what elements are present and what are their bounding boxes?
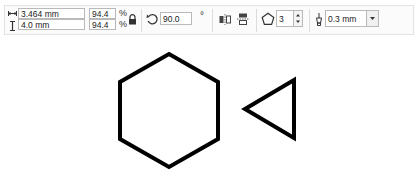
separator: [212, 9, 213, 32]
separator: [309, 9, 310, 32]
pentagon-icon: [261, 12, 275, 26]
outline-width-input[interactable]: 0.3 mm: [325, 10, 367, 27]
percent-label: %: [119, 8, 127, 18]
rotate-icon: [146, 13, 159, 26]
separator: [141, 9, 142, 32]
width-arrows-icon: [8, 10, 17, 17]
separator: [256, 9, 257, 32]
object-width-input[interactable]: 3.464 mm: [18, 8, 85, 19]
height-arrows-icon: [10, 21, 15, 31]
rotation-angle-input[interactable]: 90.0: [160, 12, 192, 25]
triangle-shape[interactable]: [245, 80, 294, 138]
outline-width-dropdown-button[interactable]: [367, 10, 379, 27]
polygon-points-input[interactable]: 3: [276, 10, 294, 27]
degree-label: °: [200, 10, 204, 21]
drawing-canvas[interactable]: [0, 36, 420, 178]
percent-label: %: [119, 19, 127, 29]
hexagon-shape[interactable]: [120, 54, 218, 167]
mirror-vertical-icon[interactable]: [237, 13, 249, 25]
pen-nib-icon: [315, 12, 323, 26]
lock-icon[interactable]: [128, 14, 137, 25]
mirror-horizontal-icon[interactable]: [219, 13, 231, 25]
points-spinner[interactable]: [294, 10, 303, 27]
object-height-input[interactable]: 4.0 mm: [18, 19, 85, 30]
scale-width-input[interactable]: 94.4: [89, 8, 116, 19]
scale-height-input[interactable]: 94.4: [89, 19, 116, 30]
property-bar: 3.464 mm 4.0 mm 94.4 94.4 % % 90.0 ° 3 0…: [4, 5, 414, 35]
